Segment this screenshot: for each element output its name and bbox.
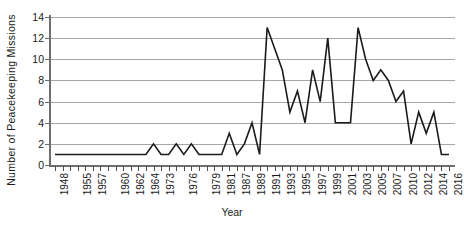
series-polyline xyxy=(55,28,449,155)
x-tick-mark xyxy=(449,166,450,171)
x-tick-mark xyxy=(146,166,147,171)
x-tick-label: 1991 xyxy=(271,173,282,195)
x-tick-mark xyxy=(154,166,155,171)
x-tick-mark xyxy=(441,166,442,171)
y-tick-label: 10 xyxy=(32,53,44,65)
y-tick-label: 2 xyxy=(38,138,44,150)
x-tick-mark xyxy=(388,166,389,171)
x-tick-mark xyxy=(419,166,420,171)
x-tick-label: 2016 xyxy=(453,173,464,195)
x-tick-label: 1979 xyxy=(211,173,222,195)
x-tick-label: 1973 xyxy=(165,173,176,195)
x-tick-mark xyxy=(184,166,185,171)
x-tick-mark xyxy=(191,166,192,171)
x-tick-mark xyxy=(381,166,382,171)
x-tick-mark xyxy=(313,166,314,171)
x-tick-label: 1997 xyxy=(317,173,328,195)
x-tick-mark xyxy=(176,166,177,171)
x-axis-title: Year xyxy=(0,206,464,218)
x-tick-mark xyxy=(214,166,215,171)
x-tick-mark xyxy=(426,166,427,171)
x-tick-mark xyxy=(123,166,124,171)
x-tick-mark xyxy=(222,166,223,171)
x-tick-mark xyxy=(252,166,253,171)
x-axis-ticks: 1948195519571960196219641973197619791981… xyxy=(0,166,464,211)
y-tick-label: 8 xyxy=(38,74,44,86)
x-tick-mark xyxy=(138,166,139,171)
x-tick-label: 1962 xyxy=(135,173,146,195)
x-tick-mark xyxy=(229,166,230,171)
x-tick-mark xyxy=(100,166,101,171)
x-tick-mark xyxy=(260,166,261,171)
y-tick-label: 4 xyxy=(38,117,44,129)
x-tick-label: 2007 xyxy=(392,173,403,195)
x-tick-mark xyxy=(343,166,344,171)
x-tick-mark xyxy=(70,166,71,171)
x-tick-label: 2012 xyxy=(423,173,434,195)
y-tick-label: 14 xyxy=(32,11,44,23)
x-tick-mark xyxy=(404,166,405,171)
x-tick-label: 1999 xyxy=(332,173,343,195)
x-tick-label: 2003 xyxy=(362,173,373,195)
y-tick-label: 6 xyxy=(38,96,44,108)
x-tick-mark xyxy=(116,166,117,171)
x-tick-label: 1948 xyxy=(59,173,70,195)
x-tick-label: 1995 xyxy=(301,173,312,195)
x-tick-mark xyxy=(351,166,352,171)
x-tick-mark xyxy=(131,166,132,171)
chart-figure: Number of Peacekeeping Missions 02468101… xyxy=(0,0,464,227)
x-tick-label: 1957 xyxy=(97,173,108,195)
y-tick-label: 12 xyxy=(32,32,44,44)
x-tick-mark xyxy=(297,166,298,171)
x-tick-label: 2005 xyxy=(377,173,388,195)
x-tick-mark xyxy=(396,166,397,171)
x-tick-label: 1993 xyxy=(286,173,297,195)
x-tick-label: 1989 xyxy=(256,173,267,195)
x-tick-mark xyxy=(434,166,435,171)
x-tick-mark xyxy=(199,166,200,171)
x-tick-label: 2010 xyxy=(408,173,419,195)
x-tick-mark xyxy=(207,166,208,171)
x-tick-mark xyxy=(267,166,268,171)
x-tick-mark xyxy=(282,166,283,171)
x-tick-mark xyxy=(237,166,238,171)
x-tick-mark xyxy=(335,166,336,171)
x-tick-mark xyxy=(320,166,321,171)
x-tick-mark xyxy=(55,166,56,171)
x-tick-mark xyxy=(305,166,306,171)
data-series-line xyxy=(51,17,455,165)
x-tick-mark xyxy=(85,166,86,171)
x-tick-mark xyxy=(161,166,162,171)
x-tick-mark xyxy=(366,166,367,171)
x-tick-label: 1960 xyxy=(120,173,131,195)
x-tick-label: 1981 xyxy=(226,173,237,195)
x-tick-mark xyxy=(358,166,359,171)
x-tick-mark xyxy=(93,166,94,171)
x-tick-mark xyxy=(373,166,374,171)
x-tick-label: 1987 xyxy=(241,173,252,195)
x-tick-label: 1964 xyxy=(150,173,161,195)
x-tick-mark xyxy=(78,166,79,171)
x-tick-mark xyxy=(290,166,291,171)
x-tick-label: 2001 xyxy=(347,173,358,195)
x-tick-mark xyxy=(244,166,245,171)
x-tick-label: 1976 xyxy=(188,173,199,195)
x-tick-mark xyxy=(169,166,170,171)
x-tick-mark xyxy=(328,166,329,171)
x-tick-label: 2014 xyxy=(438,173,449,195)
x-tick-label: 1955 xyxy=(82,173,93,195)
x-tick-mark xyxy=(108,166,109,171)
x-tick-mark xyxy=(411,166,412,171)
x-tick-mark xyxy=(63,166,64,171)
x-tick-mark xyxy=(275,166,276,171)
y-axis-title-text: Number of Peacekeeping Missions xyxy=(5,14,17,186)
